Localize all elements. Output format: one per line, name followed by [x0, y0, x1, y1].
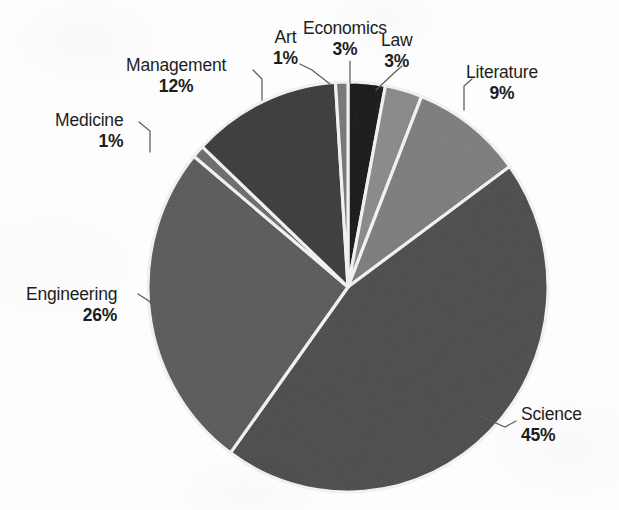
pie-label-name-science: Science [521, 404, 582, 425]
pie-label-name-economics: Economics [303, 18, 387, 39]
pie-slices-group [148, 82, 548, 492]
leader-line-medicine [139, 122, 150, 152]
pie-label-name-art: Art [273, 27, 298, 48]
pie-label-name-management: Management [126, 55, 226, 76]
pie-label-value-literature: 9% [466, 83, 538, 104]
pie-label-value-art: 1% [273, 48, 298, 69]
pie-chart-page: Economics3%Law3%Literature9%Science45%En… [0, 0, 619, 510]
pie-label-value-science: 45% [521, 425, 582, 446]
pie-label-art: Art1% [273, 27, 298, 69]
pie-label-economics: Economics3% [303, 18, 387, 60]
pie-label-science: Science45% [521, 404, 582, 446]
pie-label-value-law: 3% [381, 51, 413, 72]
pie-label-management: Management12% [126, 55, 226, 97]
pie-label-value-medicine: 1% [55, 131, 123, 152]
pie-label-name-engineering: Engineering [26, 284, 117, 305]
pie-label-literature: Literature9% [466, 62, 538, 104]
leader-line-management [253, 70, 262, 100]
pie-label-medicine: Medicine1% [55, 110, 123, 152]
pie-label-value-economics: 3% [303, 39, 387, 60]
leader-line-art [300, 64, 330, 84]
pie-label-name-literature: Literature [466, 62, 538, 83]
pie-label-value-management: 12% [126, 76, 226, 97]
pie-label-name-law: Law [381, 30, 413, 51]
pie-label-law: Law3% [381, 30, 413, 72]
pie-label-name-medicine: Medicine [55, 110, 123, 131]
pie-label-engineering: Engineering26% [26, 284, 117, 326]
pie-label-value-engineering: 26% [26, 305, 117, 326]
